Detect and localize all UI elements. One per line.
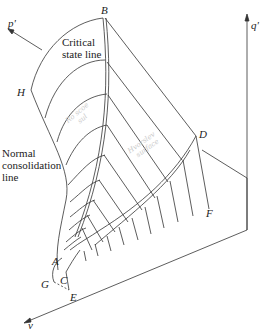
critical-state-line-label: Critical state line [62,36,101,60]
vertical-wall-lines [84,136,209,261]
axis-label-q-prime: q' [251,20,259,31]
axis-label-p-prime: p' [8,18,16,29]
point-label-d: D [199,129,207,140]
point-label-h: H [17,87,25,98]
point-label-b: B [101,5,108,16]
normal-consolidation-line-label: Normal consolidation line [2,147,61,183]
point-label-f: F [206,208,213,219]
axis-label-v: v [28,320,33,331]
v-axis [24,230,247,323]
point-label-a: A [52,256,59,267]
point-label-c: C [60,275,67,286]
point-label-e: E [70,292,77,303]
p-prime-axis [8,29,42,50]
point-label-g: G [41,279,49,290]
